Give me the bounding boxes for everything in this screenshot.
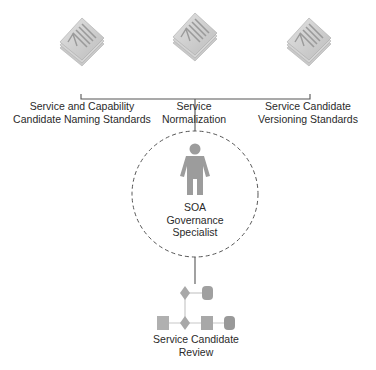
role-label: SOA Governance Specialist [166, 201, 223, 239]
versioning-standards-label: Service Candidate Versioning Standards [258, 100, 358, 125]
label-line: SOA [166, 201, 223, 214]
label-line: Candidate Naming Standards [13, 113, 151, 126]
document-stack-icon [60, 18, 104, 66]
label-line: Review [153, 346, 239, 359]
person-icon [180, 144, 210, 196]
review-label: Service Candidate Review [153, 333, 239, 358]
diagram-canvas [0, 0, 376, 370]
label-line: Versioning Standards [258, 113, 358, 126]
label-line: Service Candidate [153, 333, 239, 346]
label-line: Service and Capability [13, 100, 151, 113]
label-line: Service Candidate [258, 100, 358, 113]
label-line: Governance [166, 214, 223, 227]
normalization-label: Service Normalization [162, 100, 226, 125]
label-line: Normalization [162, 113, 226, 126]
workflow-icon [157, 286, 235, 330]
label-line: Specialist [166, 226, 223, 239]
document-stack-icon [173, 13, 217, 61]
naming-standards-label: Service and Capability Candidate Naming … [13, 100, 151, 125]
label-line: Service [162, 100, 226, 113]
document-stack-icon [287, 18, 331, 66]
